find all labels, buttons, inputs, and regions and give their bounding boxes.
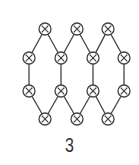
circled-x-node-icon [23,85,35,97]
edge-line [64,96,74,114]
circled-x-node-icon [102,23,114,35]
edge-line [96,96,105,113]
edge-line [111,96,121,114]
circled-x-node-icon [102,113,114,125]
edge-line [80,96,90,114]
circled-x-node-icon [55,52,67,64]
edge-line [96,34,105,52]
circled-x-node-icon [23,52,35,64]
circled-x-node-icon [55,85,67,97]
edge-line [32,34,42,52]
edge-line [80,34,90,52]
circled-x-node-icon [39,23,51,35]
edge-line [32,96,42,114]
edge-line [111,34,121,52]
circled-x-node-icon [118,52,130,64]
figure-label: 3 [14,134,125,157]
circled-x-node-icon [39,113,51,125]
edge-line [64,34,74,52]
circled-x-node-icon [87,85,99,97]
circled-x-node-icon [71,113,83,125]
circled-x-node-icon [87,52,99,64]
edges-group [29,34,124,114]
edge-line [48,34,58,52]
edge-line [48,96,58,114]
circled-x-node-icon [71,23,83,35]
circled-x-node-icon [118,85,130,97]
